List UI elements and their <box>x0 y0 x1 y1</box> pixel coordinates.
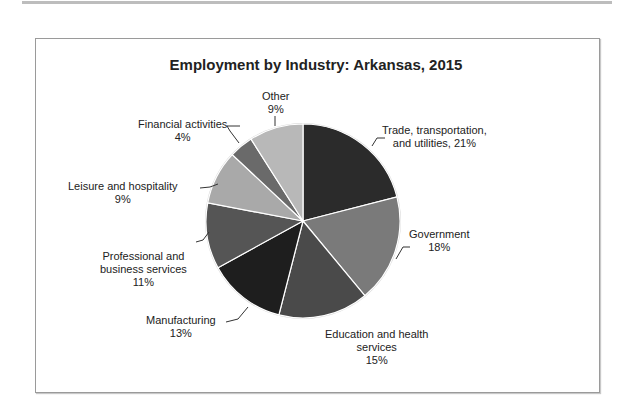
label-leisure-line2: 9% <box>68 193 177 206</box>
label-leisure: Leisure and hospitality 9% <box>68 180 177 206</box>
label-leisure-line1: Leisure and hospitality <box>68 180 177 193</box>
label-trade-line1: Trade, transportation, <box>382 124 487 137</box>
label-education-line1: Education and health <box>325 328 428 341</box>
label-manufacturing-line2: 13% <box>146 327 216 340</box>
label-financial: Financial activities 4% <box>138 118 227 144</box>
label-government: Government 18% <box>409 228 470 254</box>
leader-government <box>396 247 410 259</box>
label-trade: Trade, transportation, and utilities, 21… <box>382 124 487 150</box>
label-professional: Professional and business services 11% <box>100 250 187 289</box>
leader-financial <box>227 126 240 143</box>
label-trade-line2: and utilities, 21% <box>382 137 487 150</box>
label-financial-line2: 4% <box>138 131 227 144</box>
label-professional-line3: 11% <box>100 276 187 289</box>
label-education-line2: services <box>325 341 428 354</box>
label-other-line2: 9% <box>262 103 290 116</box>
leader-manufacturing <box>226 307 248 322</box>
label-manufacturing-line1: Manufacturing <box>146 314 216 327</box>
label-education: Education and health services 15% <box>325 328 428 367</box>
label-professional-line1: Professional and <box>100 250 187 263</box>
label-education-line3: 15% <box>325 354 428 367</box>
label-professional-line2: business services <box>100 263 187 276</box>
pie-slices <box>205 123 401 319</box>
pie-chart <box>0 0 632 417</box>
label-financial-line1: Financial activities <box>138 118 227 131</box>
label-government-line1: Government <box>409 228 470 241</box>
label-manufacturing: Manufacturing 13% <box>146 314 216 340</box>
label-government-line2: 18% <box>409 241 470 254</box>
label-other-line1: Other <box>262 90 290 103</box>
label-other: Other 9% <box>262 90 290 116</box>
